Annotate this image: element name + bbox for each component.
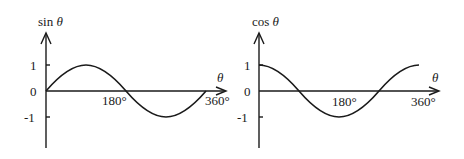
y-tick-label-0: 0 <box>244 84 251 99</box>
y-axis-label: cos θ <box>252 14 280 29</box>
x-axis-label: θ <box>432 70 439 85</box>
sin-chart: sin θ θ 1 0 -1 180° 360° <box>24 14 230 148</box>
x-tick-label-180: 180° <box>102 93 127 108</box>
y-tick-label-1: 1 <box>30 58 37 73</box>
x-tick-label-180: 180° <box>332 94 357 109</box>
x-axis-label: θ <box>217 70 224 85</box>
y-tick-label-neg1: -1 <box>24 110 35 125</box>
y-tick-label-neg1: -1 <box>237 110 248 125</box>
y-tick-label-0: 0 <box>30 84 37 99</box>
x-tick-label-360: 360° <box>205 93 230 108</box>
chart-canvas: sin θ θ 1 0 -1 180° 360° cos θ θ 1 0 -1 … <box>0 0 464 159</box>
cos-chart: cos θ θ 1 0 -1 180° 360° <box>237 14 439 148</box>
y-tick-label-1: 1 <box>244 58 251 73</box>
x-tick-label-360: 360° <box>411 94 436 109</box>
y-axis-label: sin θ <box>38 14 63 29</box>
